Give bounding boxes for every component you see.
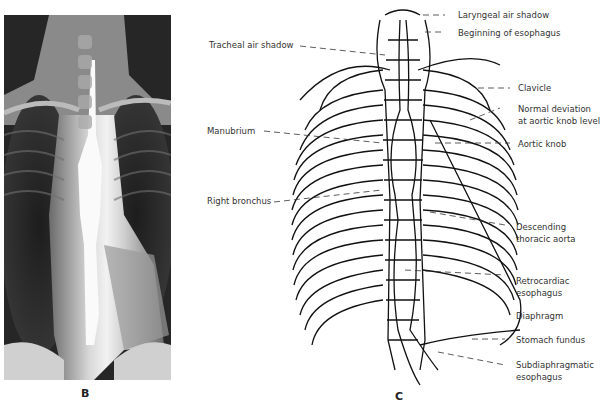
label-tracheal-air-shadow: Tracheal air shadow — [209, 40, 294, 50]
panel-label-c: C — [395, 390, 403, 403]
label-descending-aorta-1: Descending — [516, 222, 566, 232]
label-clavicle: Clavicle — [518, 83, 551, 93]
label-right-bronchus: Right bronchus — [207, 196, 271, 206]
label-manubrium: Manubrium — [207, 126, 255, 136]
label-beginning-of-esophagus: Beginning of esophagus — [458, 28, 560, 38]
label-normal-deviation-1: Normal deviation — [518, 104, 591, 114]
label-laryngeal-air-shadow: Laryngeal air shadow — [458, 10, 549, 20]
label-diaphragm: Diaphragm — [516, 311, 563, 321]
label-stomach-fundus: Stomach fundus — [516, 335, 585, 345]
label-aortic-knob: Aortic knob — [518, 139, 566, 149]
label-subdiaphragmatic-2: esophagus — [516, 372, 562, 382]
label-descending-aorta-2: thoracic aorta — [516, 234, 575, 244]
label-subdiaphragmatic-1: Subdiaphragmatic — [516, 360, 594, 370]
label-retrocardiac-1: Retrocardiac — [516, 276, 569, 286]
label-retrocardiac-2: esophagus — [516, 288, 562, 298]
label-normal-deviation-2: at aortic knob level — [518, 116, 600, 126]
